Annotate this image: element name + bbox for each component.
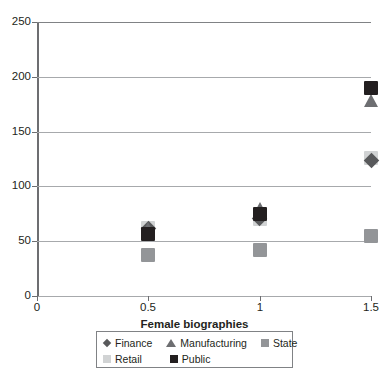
plot-area bbox=[37, 22, 371, 296]
y-axis-tick-label: 200 bbox=[1, 71, 31, 83]
legend-item-retail[interactable]: Retail bbox=[103, 354, 142, 365]
y-axis-tick-label: 50 bbox=[1, 235, 31, 247]
legend-row: RetailPublic bbox=[97, 351, 292, 367]
legend-item-state[interactable]: State bbox=[261, 338, 298, 349]
x-axis-tick-label: 0 bbox=[17, 301, 57, 313]
y-axis-tick-label: 250 bbox=[1, 16, 31, 28]
data-point-manufacturing bbox=[364, 94, 378, 107]
legend-diamond-icon bbox=[103, 339, 111, 347]
y-axis-tick bbox=[32, 186, 37, 187]
legend-square-icon bbox=[261, 339, 269, 347]
y-axis-tick bbox=[32, 132, 37, 133]
legend-square-icon bbox=[170, 355, 178, 363]
gridline bbox=[37, 22, 371, 23]
x-axis-tick bbox=[148, 296, 149, 301]
gridline bbox=[37, 186, 371, 187]
legend-label: Finance bbox=[115, 338, 152, 349]
y-axis-tick bbox=[32, 22, 37, 23]
x-axis-tick-label: 1 bbox=[240, 301, 280, 313]
y-axis-tick bbox=[32, 241, 37, 242]
data-point-state bbox=[253, 243, 267, 257]
x-axis-tick bbox=[37, 296, 38, 301]
data-point-public bbox=[253, 207, 267, 221]
gridline bbox=[37, 132, 371, 133]
legend-item-finance[interactable]: Finance bbox=[103, 338, 152, 349]
y-axis-tick bbox=[32, 77, 37, 78]
legend-row: FinanceManufacturingState bbox=[97, 335, 292, 351]
y-axis-tick-label: 100 bbox=[1, 180, 31, 192]
legend-label: Retail bbox=[115, 354, 142, 365]
legend-label: State bbox=[273, 338, 298, 349]
gridline bbox=[37, 296, 371, 297]
x-axis-tick-label: 0.5 bbox=[128, 301, 168, 313]
legend-label: Public bbox=[182, 354, 211, 365]
chart-legend: FinanceManufacturingStateRetailPublic bbox=[96, 331, 293, 368]
data-point-public bbox=[141, 227, 155, 241]
x-axis-tick-label: 1.5 bbox=[351, 301, 389, 313]
data-point-state bbox=[141, 248, 155, 262]
legend-label: Manufacturing bbox=[180, 338, 247, 349]
scatter-chart: 050100150200250 00.511.5 Female biograph… bbox=[0, 0, 389, 377]
data-point-state bbox=[364, 229, 378, 243]
y-axis-tick-label: 0 bbox=[1, 290, 31, 302]
legend-triangle-icon bbox=[166, 339, 176, 347]
x-axis-tick bbox=[260, 296, 261, 301]
data-point-public bbox=[364, 81, 378, 95]
legend-item-public[interactable]: Public bbox=[170, 354, 211, 365]
y-axis-tick-label: 150 bbox=[1, 126, 31, 138]
legend-item-manufacturing[interactable]: Manufacturing bbox=[166, 338, 247, 349]
legend-square-icon bbox=[103, 355, 111, 363]
x-axis-tick bbox=[371, 296, 372, 301]
x-axis-title: Female biographies bbox=[0, 318, 389, 330]
gridline bbox=[37, 77, 371, 78]
gridline bbox=[37, 241, 371, 242]
